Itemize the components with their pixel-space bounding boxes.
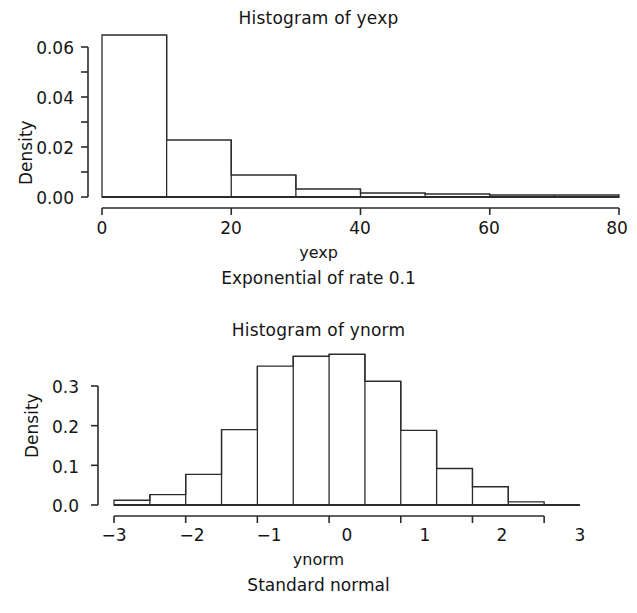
- sub-caption-ynorm: Standard normal: [0, 575, 637, 595]
- panel-histogram-ynorm: Histogram of ynorm Density 0.0 0.1 0.2 0…: [0, 305, 637, 613]
- histogram-bars: [102, 35, 619, 197]
- figure-two-histograms: Histogram of yexp Density 0.00 0.02 0.04…: [0, 0, 637, 613]
- sub-caption-yexp: Exponential of rate 0.1: [0, 268, 637, 288]
- x-axis-label-yexp: yexp: [0, 243, 637, 262]
- x-axis-label-ynorm: ynorm: [0, 550, 637, 569]
- panel-histogram-yexp: Histogram of yexp Density 0.00 0.02 0.04…: [0, 0, 637, 305]
